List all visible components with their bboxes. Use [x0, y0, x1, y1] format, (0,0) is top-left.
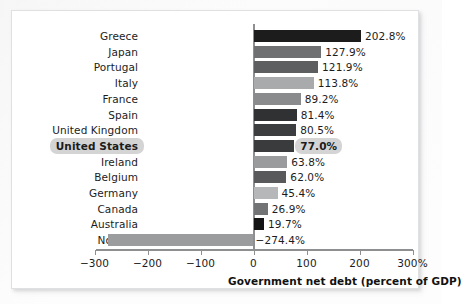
- bar-value-label: 89.2%: [305, 91, 339, 107]
- bar-row: Italy113.8%: [0, 75, 442, 91]
- x-axis-tick-label: 200: [349, 257, 369, 269]
- category-label: Portugal: [94, 59, 138, 75]
- category-label: France: [102, 91, 138, 107]
- category-label: Italy: [115, 75, 138, 91]
- x-axis-tick: [201, 250, 203, 255]
- bar-value-label: 77.0%: [295, 138, 342, 154]
- x-axis-title: Government net debt (percent of GDP): [228, 275, 462, 287]
- bar-value-label: 26.9%: [272, 201, 306, 217]
- x-axis-tick: [307, 250, 309, 255]
- x-axis-tick-label: 300%: [397, 257, 427, 269]
- bar-value-label: 19.7%: [268, 216, 302, 232]
- bar: [254, 77, 314, 89]
- bar: [254, 124, 297, 136]
- bar-value-label: 127.9%: [325, 44, 366, 60]
- bar-row: France89.2%: [0, 91, 442, 107]
- bar-row: United Kingdom80.5%: [0, 122, 442, 138]
- x-axis-tick-label: 0: [250, 257, 257, 269]
- bar: [254, 109, 297, 121]
- bar-row: Canada26.9%: [0, 201, 442, 217]
- category-label: Germany: [89, 185, 138, 201]
- bar: [254, 61, 319, 73]
- bar: [254, 156, 288, 168]
- bar: [254, 140, 295, 152]
- bar: [254, 187, 278, 199]
- category-label: United States: [50, 138, 144, 154]
- bar-row: Portugal121.9%: [0, 59, 442, 75]
- bar: [254, 218, 264, 230]
- category-label: Spain: [108, 107, 138, 123]
- x-axis-tick: [95, 250, 97, 255]
- bar-value-label: 63.8%: [291, 154, 325, 170]
- x-axis-tick-label: −300: [80, 257, 109, 269]
- bar-value-label: −274.4%: [256, 232, 306, 248]
- bar: [254, 171, 287, 183]
- x-axis-tick-label: −100: [186, 257, 215, 269]
- bar-value-label: 121.9%: [322, 59, 363, 75]
- bar-value-label: 80.5%: [300, 122, 334, 138]
- bar: [254, 46, 322, 58]
- bar: [254, 203, 268, 215]
- category-label: Japan: [108, 44, 138, 60]
- category-label: Canada: [97, 201, 138, 217]
- bar-row: Norway−274.4%: [0, 232, 442, 248]
- x-axis-tick-label: −200: [133, 257, 162, 269]
- bar: [254, 93, 301, 105]
- bar-value-label: 62.0%: [290, 169, 324, 185]
- bar-value-label: 202.8%: [365, 28, 406, 44]
- bar-value-label: 113.8%: [318, 75, 359, 91]
- x-axis-tick: [413, 250, 415, 255]
- bar-row: Japan127.9%: [0, 44, 442, 60]
- bar-row: Germany45.4%: [0, 185, 442, 201]
- bar-row: Belgium62.0%: [0, 169, 442, 185]
- x-axis-tick: [254, 250, 256, 255]
- x-axis-tick-label: 100: [296, 257, 316, 269]
- bar-row: Spain81.4%: [0, 107, 442, 123]
- bar-row: Ireland63.8%: [0, 154, 442, 170]
- bar: [108, 234, 253, 246]
- category-label: Australia: [91, 216, 138, 232]
- category-label: Belgium: [94, 169, 138, 185]
- bar-row: United States77.0%: [0, 138, 442, 154]
- bar-row: Greece202.8%: [0, 28, 442, 44]
- category-label: Greece: [100, 28, 138, 44]
- bar-value-label: 81.4%: [301, 107, 335, 123]
- category-label: Ireland: [101, 154, 138, 170]
- x-axis-tick: [360, 250, 362, 255]
- x-axis-tick: [148, 250, 150, 255]
- category-label: United Kingdom: [52, 122, 138, 138]
- bar-value-label: 45.4%: [282, 185, 316, 201]
- bar: [254, 30, 361, 42]
- bar-row: Australia19.7%: [0, 216, 442, 232]
